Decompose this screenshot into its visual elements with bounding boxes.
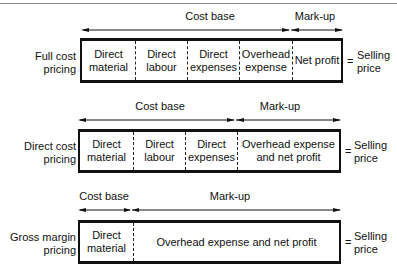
equals-sign: =	[345, 236, 351, 248]
row-label-line2: pricing	[2, 244, 76, 257]
cell-overhead-and-net-profit: Overhead expense and net profit	[133, 223, 339, 261]
selling-price-label: Sellingprice	[354, 230, 387, 256]
row-label: Gross margin pricing	[2, 231, 76, 257]
cost-breakdown-bar: Directmaterial Overhead expense and net …	[78, 220, 341, 264]
row-label-line1: Gross margin	[2, 231, 76, 244]
cost-base-arrow	[0, 0, 397, 220]
cell-direct-material: Directmaterial	[80, 223, 133, 261]
